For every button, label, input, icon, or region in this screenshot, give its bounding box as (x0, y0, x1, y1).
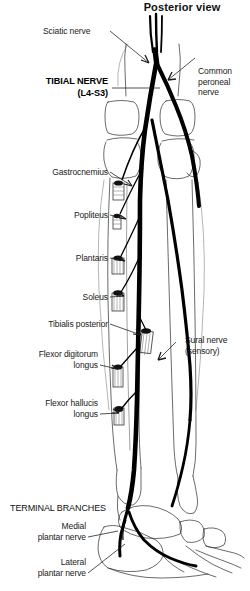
label-flexor-hallucis-longus: Flexor hallucis longus (8, 398, 98, 419)
label-sciatic-nerve: Sciatic nerve (43, 26, 113, 37)
label-gastrocnemius: Gastrocnemius (8, 167, 108, 178)
sciatic-fiber-3 (161, 16, 162, 52)
nerve-paths (120, 14, 199, 566)
gastrocnemius-marker (113, 180, 124, 200)
sural-nerve-distal (172, 420, 190, 506)
page-title: Posterior view (118, 1, 246, 13)
label-lateral-plantar-nerve: Lateral plantar nerve (0, 557, 86, 578)
flexor-hallucis-longus-marker (114, 406, 124, 425)
leader-lateral-plantar (88, 544, 125, 573)
leader-common-peroneal (168, 58, 195, 80)
plantaris-marker (112, 255, 124, 274)
flexor-digitorum-longus-marker (113, 364, 123, 387)
branch-flexor-digitorum (121, 348, 137, 366)
sciatic-fiber-2 (156, 14, 157, 52)
label-terminal-branches: TERMINAL BRANCHES (10, 503, 106, 513)
tibial-nerve-trunk (128, 64, 156, 508)
arrowhead-common-peroneal (168, 72, 176, 80)
label-plantaris: Plantaris (8, 253, 108, 264)
label-flexor-digitorum-longus: Flexor digitorum longus (8, 349, 98, 370)
leader-medial-plantar (88, 531, 118, 537)
branch-plantaris (121, 216, 140, 256)
label-soleus: Soleus (8, 292, 108, 303)
label-common-peroneal-nerve: Common peroneal nerve (198, 66, 250, 98)
tibialis-posterior-marker (140, 328, 154, 355)
label-popliteus: Popliteus (8, 210, 108, 221)
label-tibialis-posterior: Tibialis posterior (8, 319, 108, 330)
tibial-nerve-name: TIBIAL NERVE (46, 76, 108, 86)
soleus-marker (112, 290, 124, 311)
label-sural-nerve: Sural nerve (sensory) (185, 335, 250, 356)
tibial-nerve-diagram: Posterior view Sciatic nerve TIBIAL NERV… (0, 0, 250, 591)
sciatic-fiber-1 (150, 16, 153, 52)
leader-sural (158, 342, 176, 360)
branch-flexor-hallucis (122, 392, 136, 408)
label-medial-plantar-nerve: Medial plantar nerve (0, 521, 86, 542)
leader-sciatic (110, 31, 149, 63)
tibial-bracket (118, 44, 128, 86)
arrowhead-sciatic (141, 55, 149, 63)
tibial-nerve-roots: (L4-S3) (78, 88, 108, 98)
label-tibial-nerve: TIBIAL NERVE(L4-S3) (8, 76, 108, 99)
